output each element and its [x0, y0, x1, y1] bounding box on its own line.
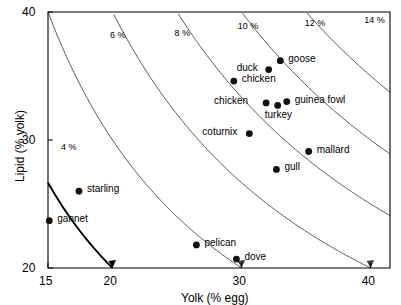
- data-point: [233, 256, 240, 263]
- contour-label: 4 %: [61, 143, 77, 152]
- axis-frame: [48, 12, 390, 268]
- contour-label: 10 %: [238, 22, 259, 31]
- axis-ticks: [48, 12, 371, 268]
- contour-layer: [48, 12, 390, 268]
- contour-label: 14 %: [364, 16, 385, 25]
- data-point: [265, 66, 272, 73]
- data-point-layer: [46, 57, 312, 262]
- data-point: [193, 242, 200, 249]
- data-point: [274, 102, 281, 109]
- data-point: [76, 188, 83, 195]
- x-tick-label: 20: [104, 275, 117, 287]
- data-point: [230, 78, 237, 85]
- point-label: guinea fowl: [295, 95, 346, 105]
- data-point: [263, 99, 270, 106]
- data-point: [283, 98, 290, 105]
- point-label: duck: [237, 63, 258, 73]
- contour-label: 6 %: [110, 31, 126, 40]
- data-point: [246, 130, 253, 137]
- point-label: mallard: [317, 145, 350, 155]
- point-label: gannet: [57, 214, 88, 224]
- point-label: coturnix: [202, 127, 237, 137]
- point-label: dove: [244, 252, 266, 262]
- point-label: chicken: [214, 96, 248, 106]
- y-tick-label: 40: [22, 6, 35, 18]
- point-label: starling: [87, 184, 119, 194]
- point-label: goose: [288, 54, 315, 64]
- point-label: chicken: [242, 74, 276, 84]
- point-label: pelican: [204, 238, 236, 248]
- data-point: [46, 217, 53, 224]
- y-tick-label: 30: [22, 134, 35, 146]
- data-point: [273, 166, 280, 173]
- point-label: gull: [284, 162, 300, 172]
- x-tick-label: 40: [362, 275, 375, 287]
- data-point: [277, 57, 284, 64]
- y-tick-label: 20: [22, 262, 35, 274]
- x-axis-title: Yolk (% egg): [181, 292, 249, 304]
- contour-label: 8 %: [174, 29, 190, 38]
- x-tick-label: 30: [233, 275, 246, 287]
- point-label: turkey: [265, 110, 292, 120]
- data-point: [305, 148, 312, 155]
- x-tick-label: 15: [39, 275, 52, 287]
- contour-label: 12 %: [305, 19, 326, 28]
